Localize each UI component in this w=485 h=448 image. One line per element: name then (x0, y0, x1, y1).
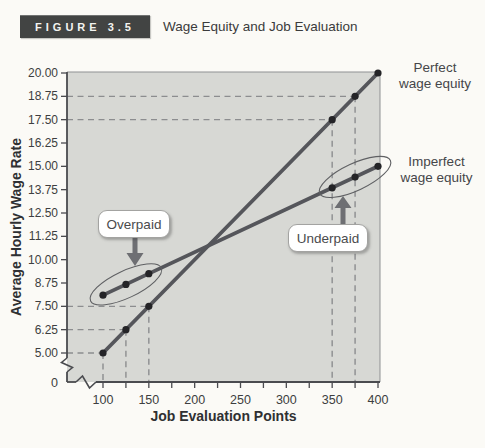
y-tick-label: 18.75 (28, 89, 58, 103)
y-tick-label: 12.50 (28, 206, 58, 220)
data-point (351, 173, 358, 180)
x-tick-label: 250 (230, 393, 251, 407)
y-axis-title: Average Hourly Wage Rate (8, 138, 24, 316)
data-point (351, 93, 358, 100)
y-tick-label: 8.75 (35, 276, 59, 290)
data-point (145, 270, 152, 277)
y-tick-label: 7.50 (35, 299, 59, 313)
overpaid-callout: Overpaid (98, 210, 170, 238)
data-point (329, 184, 336, 191)
imperfect-line-label-line2: wage equity (388, 170, 485, 186)
x-axis-title: Job Evaluation Points (67, 408, 380, 424)
perfect-line-label-line1: Perfect (392, 60, 478, 76)
x-tick-label: 400 (368, 393, 389, 407)
data-point (374, 163, 381, 170)
data-point (122, 281, 129, 288)
underpaid-callout: Underpaid (288, 224, 368, 252)
data-point (99, 292, 106, 299)
x-tick-label: 300 (276, 393, 297, 407)
y-tick-label: 6.25 (35, 323, 59, 337)
x-tick-label: 100 (93, 393, 114, 407)
perfect-line-label: Perfect wage equity (392, 60, 478, 92)
x-tick-label: 350 (322, 393, 343, 407)
imperfect-line-label-line1: Imperfect (388, 154, 485, 170)
imperfect-line-label: Imperfect wage equity (388, 154, 485, 186)
y-tick-label: 15.00 (28, 159, 58, 173)
x-tick-label: 150 (138, 393, 159, 407)
data-point (122, 326, 129, 333)
data-point (99, 349, 106, 356)
data-point (145, 303, 152, 310)
y-tick-label: 16.25 (28, 136, 58, 150)
y-tick-label: 17.50 (28, 113, 58, 127)
perfect-line-label-line2: wage equity (392, 76, 478, 92)
y-tick-label: 13.75 (28, 183, 58, 197)
y-tick-label: 20.00 (28, 66, 58, 80)
y-tick-label: 10.00 (28, 253, 58, 267)
data-point (329, 116, 336, 123)
y-tick-label: 11.25 (29, 229, 58, 243)
y-tick-label: 5.00 (35, 346, 59, 360)
y-origin-label: 0 (51, 376, 58, 390)
data-point (374, 69, 381, 76)
x-tick-label: 200 (184, 393, 205, 407)
